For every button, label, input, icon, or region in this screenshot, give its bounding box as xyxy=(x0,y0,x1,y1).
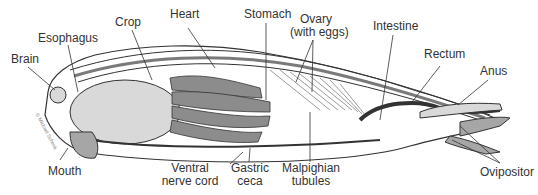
label-malpighian-line2: tubules xyxy=(282,175,340,188)
label-ovipositor: Ovipositor xyxy=(480,166,534,179)
label-mouth: Mouth xyxy=(48,165,81,178)
label-gastric-line2: ceca xyxy=(228,175,272,188)
label-rectum: Rectum xyxy=(424,48,465,61)
label-crop: Crop xyxy=(115,16,141,29)
label-ovary-line2: (with eggs) xyxy=(290,26,342,39)
label-ventral-nerve-cord: Ventral nerve cord xyxy=(158,162,222,188)
label-ventral-line2: nerve cord xyxy=(158,175,222,188)
label-malpighian-tubules: Malpighian tubules xyxy=(282,162,340,188)
label-heart: Heart xyxy=(170,8,199,21)
label-anus: Anus xyxy=(480,65,507,78)
label-esophagus: Esophagus xyxy=(38,32,98,45)
label-stomach: Stomach xyxy=(244,8,291,21)
ovipositor-lower-shape xyxy=(445,136,500,154)
brain-shape xyxy=(50,87,66,103)
label-gastric-ceca: Gastric ceca xyxy=(228,162,272,188)
mouth-shape xyxy=(70,132,98,158)
label-ovary: Ovary (with eggs) xyxy=(290,13,342,39)
label-intestine: Intestine xyxy=(373,20,418,33)
label-brain: Brain xyxy=(11,53,39,66)
